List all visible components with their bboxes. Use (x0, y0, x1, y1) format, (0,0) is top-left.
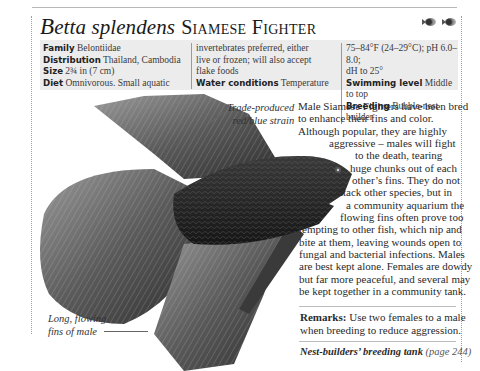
text-line: be kept together in a community tank. (299, 285, 466, 297)
latin-name-rest: etta splendens (54, 15, 175, 39)
remarks-text: when breeding to reduce aggression. (300, 324, 466, 337)
text-line: fungal and bacterial infections. Males (299, 248, 465, 260)
fact-value: Temperature (281, 78, 329, 88)
text-line: huge chunks out of each (350, 162, 457, 174)
habitat-symbols (422, 17, 458, 27)
fact-label: Size (43, 66, 63, 76)
fact-size: Size 2¾ in (7 cm) (43, 66, 183, 78)
caption-line: Trade-produced (227, 102, 294, 115)
text-line: other’s fins. They do not (352, 174, 460, 186)
cross-reference: Nest-builders’ breeding tank (page 244) (300, 346, 471, 357)
fact-column-1: Family Belontiidae Distribution Thailand… (43, 43, 183, 89)
fact-label: Water conditions (196, 78, 279, 88)
fish-symbol-icon (422, 17, 438, 27)
text-line: but far more peaceful, and several may (299, 273, 470, 285)
fact-value: 75–84°F (24–29°C); pH 6.0–8.0; (346, 43, 457, 65)
caption-leader-line (104, 331, 148, 332)
text-line: are best kept alone. Females are dowdy (299, 260, 472, 272)
fact-value: live or frozen; will also accept (196, 55, 311, 65)
section-divider (299, 306, 456, 307)
text-line: tempting to other fish, which nip and (299, 223, 462, 235)
fact-line: live or frozen; will also accept (196, 55, 341, 67)
fact-column-2: invertebrates preferred, either live or … (191, 43, 341, 89)
fact-value: Omnivorous. Small aquatic (65, 78, 169, 88)
fact-line: dH to 25° (346, 66, 461, 78)
text-line: aggressive – males will fight (329, 137, 455, 149)
caption-strain: Trade-produced red/blue strain (227, 102, 294, 127)
fact-line: 75–84°F (24–29°C); pH 6.0–8.0; (346, 43, 461, 66)
fact-value: Belontiidae (77, 43, 121, 53)
text-line: attack other species, but in (335, 186, 452, 198)
remarks: Remarks: Use two females to a male when … (300, 311, 466, 337)
text-line: bite at them, leaving wounds open to (299, 236, 461, 248)
latin-name-initial: B (40, 14, 54, 39)
fact-box: Family Belontiidae Distribution Thailand… (40, 40, 458, 90)
text-line: flowing fins often prove too (340, 211, 463, 223)
text-line: a community aquarium the (346, 199, 464, 211)
cross-reference-title: Nest-builders’ breeding tank (300, 346, 423, 357)
text-line: Although popular, they are highly (298, 125, 447, 137)
page-title: Betta splendensSiamese Fighter (40, 14, 316, 40)
remarks-text: Use two females to a male (346, 311, 465, 323)
text-line: to the death, tearing (355, 149, 442, 161)
fact-diet: Diet Omnivorous. Small aquatic (43, 78, 183, 90)
cross-reference-page: (page 244) (423, 346, 471, 357)
caption-fins: Long, flowing fins of male (48, 313, 106, 338)
fact-distribution: Distribution Thailand, Cambodia (43, 55, 183, 67)
remarks-label: Remarks: (300, 311, 346, 323)
fact-value: invertebrates preferred, either (196, 43, 309, 53)
caption-line: fins of male (48, 326, 106, 339)
latin-name: Betta splendens (40, 15, 175, 39)
fact-value: 2¾ in (7 cm) (65, 66, 114, 76)
fact-value: dH to 25° (346, 66, 383, 76)
fact-water-conditions: Water conditions Temperature (196, 78, 341, 90)
section-divider (299, 341, 456, 342)
fact-label: Family (43, 43, 75, 53)
text-line: Male Siamese Fighters have been bred (298, 100, 468, 112)
left-margin-dotted-line (31, 16, 32, 334)
fact-line: flake foods (196, 66, 341, 78)
fact-family: Family Belontiidae (43, 43, 183, 55)
fact-label: Diet (43, 78, 63, 88)
caption-line: red/blue strain (227, 115, 294, 128)
common-name: Siamese Fighter (181, 16, 316, 38)
fact-value: flake foods (196, 66, 238, 76)
text-line: to enhance their fins and color. (298, 112, 434, 124)
fact-label: Distribution (43, 55, 101, 65)
caption-line: Long, flowing (48, 313, 106, 326)
fact-line: invertebrates preferred, either (196, 43, 341, 55)
fish-symbol-icon (442, 17, 458, 27)
fact-label: Swimming level (346, 78, 422, 88)
fact-value: Thailand, Cambodia (103, 55, 181, 65)
top-rule (32, 7, 457, 8)
